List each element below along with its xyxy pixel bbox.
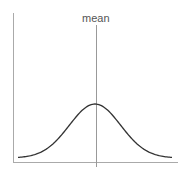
chart-canvas: mean (0, 0, 186, 177)
mean-label: mean (82, 12, 110, 24)
chart-svg (0, 0, 186, 177)
bell-curve (18, 104, 172, 157)
